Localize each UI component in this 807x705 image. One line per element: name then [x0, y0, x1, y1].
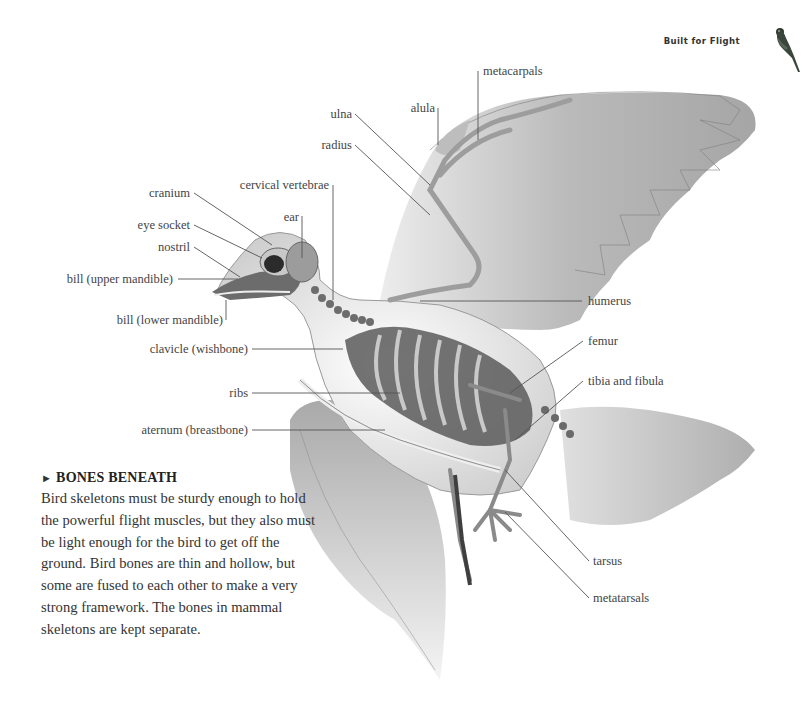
- label-alula: alula: [411, 101, 435, 115]
- label-eye-socket: eye socket: [138, 218, 190, 232]
- caption-body: Bird skeletons must be sturdy enough to …: [41, 488, 316, 641]
- label-metacarpals: metacarpals: [483, 64, 543, 78]
- label-cranium: cranium: [149, 186, 190, 200]
- label-cervical-vertebrae: cervical vertebrae: [240, 178, 329, 192]
- label-ulna: ulna: [330, 107, 352, 121]
- label-nostril: nostril: [158, 240, 190, 254]
- label-sternum: aternum (breastbone): [141, 423, 248, 437]
- label-metatarsals: metatarsals: [593, 591, 649, 605]
- label-ear: ear: [284, 210, 299, 224]
- label-ribs: ribs: [229, 386, 248, 400]
- tail: [560, 407, 755, 525]
- caption-title: ►BONES BENEATH: [41, 470, 316, 486]
- caption-title-text: BONES BENEATH: [56, 470, 177, 485]
- label-humerus: humerus: [588, 294, 631, 308]
- label-tarsus: tarsus: [593, 554, 622, 568]
- label-femur: femur: [588, 334, 618, 348]
- upper-wing: [380, 92, 756, 330]
- caption-block: ►BONES BENEATH Bird skeletons must be st…: [41, 470, 316, 641]
- label-tibia-and-fibula: tibia and fibula: [588, 374, 664, 388]
- label-clavicle: clavicle (wishbone): [150, 342, 248, 356]
- label-bill-lower-mandible: bill (lower mandible): [117, 313, 223, 327]
- label-radius: radius: [321, 138, 352, 152]
- triangle-marker-icon: ►: [41, 472, 52, 484]
- label-bill-upper-mandible: bill (upper mandible): [67, 272, 173, 286]
